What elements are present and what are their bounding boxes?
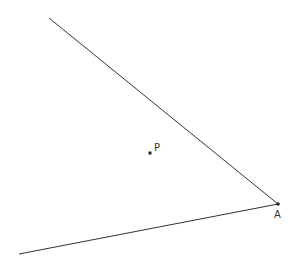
point-p-marker — [149, 152, 152, 155]
point-a-label: A — [274, 209, 281, 220]
point-p-label: P — [154, 142, 160, 153]
upper-ray — [49, 18, 278, 204]
point-a-marker — [276, 202, 280, 206]
lower-ray — [19, 204, 278, 254]
angle-diagram: P A — [0, 0, 304, 268]
geometry-canvas: P A — [0, 0, 304, 268]
